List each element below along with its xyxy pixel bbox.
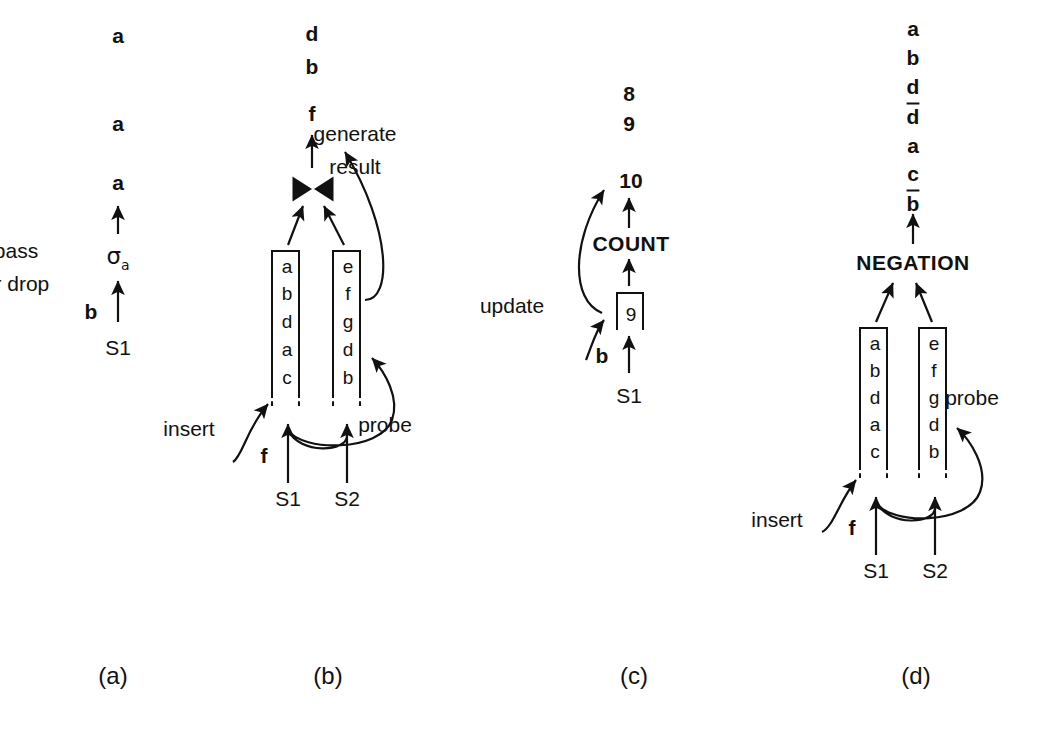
panel-b-input-tuple: f [261,445,268,466]
panel-a-input-tuple: b [85,301,98,322]
panel-b-probe-label: probe [358,414,412,435]
panel-b-source-s1-label: S1 [275,488,301,509]
panel-d-s1-dash-left [859,465,861,478]
panel-d-hash-table-s2: e f g d b [918,327,947,466]
panel-d-output-6: b [907,193,920,214]
panel-d-probe-label: probe [945,387,999,408]
join-bowtie-icon [290,174,336,204]
panel-d-s2-cell-0: e [929,334,940,353]
connector-overlay [0,0,1055,736]
caption-c: (c) [620,664,648,688]
panel-b-s2-cell-3: d [343,340,354,359]
panel-d-s1-cell-0: a [870,334,881,353]
panel-d-output-2: d [907,76,920,97]
panel-b-s1-cell-0: a [282,257,293,276]
panel-d-s1-cells: a b d a c [861,329,886,466]
panel-b-output-0: d [306,23,319,44]
panel-d-s2-cell-4: b [929,442,940,461]
panel-d-s2-cell-2: g [929,388,940,407]
panel-d-s1-cell-3: a [870,415,881,434]
panel-c-output-2: 10 [619,170,642,191]
panel-b-s1-dash-right [298,393,300,406]
panel-b-s1-cell-4: c [282,368,292,387]
panel-b-output-2: f [309,103,316,124]
panel-b-s1-dash-left [271,393,273,406]
panel-b-s1-cell-2: d [282,312,293,331]
panel-d-output-3: d [907,106,920,127]
panel-d-s1-dash-right [886,465,888,478]
panel-b-s1-cells: a b d a c [273,252,298,394]
panel-d-source-s2-label: S2 [922,560,948,581]
panel-d-output-0: a [907,18,919,39]
panel-b-hash-table-s2: e f g d b [332,250,361,394]
panel-d-output-4: a [907,135,919,156]
caption-b: (b) [313,664,342,688]
panel-d-s1-cell-4: c [870,442,880,461]
panel-b-s1-cell-3: a [282,340,293,359]
panel-d-input-tuple: f [849,517,856,538]
panel-d-output-1: b [907,47,920,68]
panel-c-update-label: update [480,295,544,316]
panel-b-s2-cell-0: e [343,257,354,276]
panel-b-s2-cells: e f g d b [334,252,359,394]
panel-c-output-1: 9 [623,113,635,134]
panel-b-output-1: b [306,56,319,77]
panel-c-counter-value: 9 [626,305,637,324]
panel-d-s2-cell-1: f [931,361,936,380]
panel-b-s2-cell-1: f [345,284,350,303]
panel-d-s2-cell-3: d [929,415,940,434]
panel-d-source-s1-label: S1 [863,560,889,581]
panel-a-source-label: S1 [105,337,131,358]
caption-a: (a) [98,664,127,688]
panel-a-annotation-line1: pass [0,240,38,261]
caption-d: (d) [901,664,930,688]
panel-b-s2-cell-2: g [343,312,354,331]
panel-d-s2-dash-left [918,465,920,478]
panel-c-source-label: S1 [616,385,642,406]
panel-d-insert-label: insert [751,509,802,530]
panel-d-s1-cell-2: d [870,388,881,407]
panel-b-s2-dash-left [332,393,334,406]
figure-canvas: a a a σa pass or drop b S1 d b f generat… [0,0,1055,736]
sigma-subscript: a [121,257,130,273]
panel-b-insert-label: insert [163,418,214,439]
panel-b-s2-cell-4: b [343,368,354,387]
panel-a-output-0: a [112,25,124,46]
panel-d-output-5: c [907,163,919,184]
panel-c-counter-box: 9 [616,292,644,330]
panel-c-operator: COUNT [592,233,669,254]
panel-b-source-s2-label: S2 [334,488,360,509]
panel-a-output-2: a [112,172,124,193]
panel-d-s2-dash-right [945,465,947,478]
sigma-glyph: σ [106,243,121,269]
sigma-a-operator: σa [106,243,129,273]
panel-b-annotation-line2: result [329,156,380,177]
panel-d-operator: NEGATION [856,252,969,273]
panel-c-input-tuple: b [596,345,609,366]
panel-b-hash-table-s1: a b d a c [271,250,300,394]
panel-d-s2-cells: e f g d b [920,329,945,466]
panel-d-s1-cell-1: b [870,361,881,380]
panel-b-annotation-line1: generate [314,123,397,144]
panel-a-annotation-line2: or drop [0,273,49,294]
panel-c-output-0: 8 [623,83,635,104]
panel-a-output-1: a [112,113,124,134]
panel-d-hash-table-s1: a b d a c [859,327,888,466]
panel-b-s2-dash-right [359,393,361,406]
panel-b-s1-cell-1: b [282,284,293,303]
